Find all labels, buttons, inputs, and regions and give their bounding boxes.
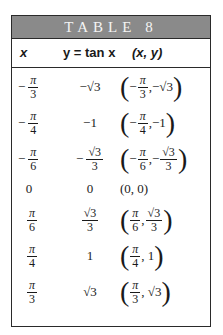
cell-x: 0	[18, 175, 40, 203]
table-row: π6 √33 (π6,√33)	[12, 202, 210, 238]
cell-pair: (−π6,−√33)	[120, 141, 210, 177]
table-header: x y = tan x (x, y)	[12, 38, 210, 68]
cell-y: −1	[62, 105, 118, 141]
cell-x: π6	[18, 202, 54, 238]
table-row: π4 1 (π4, 1)	[12, 238, 210, 274]
table-title: TABLE 8	[12, 16, 210, 38]
cell-y: −√3	[62, 69, 118, 105]
header-pair: (x, y)	[132, 45, 162, 60]
cell-y: √33	[62, 202, 118, 238]
tangent-values-table: TABLE 8 x y = tan x (x, y) −π3 −√3 (−π3,…	[11, 15, 211, 327]
header-x: x	[20, 45, 27, 60]
cell-pair: (π4, 1)	[120, 238, 210, 274]
cell-pair: (π6,√33)	[120, 202, 210, 238]
cell-pair: (π3, √3)	[120, 274, 210, 310]
table-row: −π3 −√3 (−π3,−√3)	[12, 69, 210, 105]
cell-y: 0	[62, 175, 118, 203]
cell-pair: (0, 0)	[120, 175, 210, 203]
table-row: 0 0 (0, 0)	[12, 175, 210, 203]
cell-y: √3	[62, 274, 118, 310]
header-y: y = tan x	[63, 45, 115, 60]
cell-pair: (−π4,−1)	[120, 105, 210, 141]
cell-x: π4	[18, 238, 54, 274]
cell-y: −√33	[62, 141, 118, 177]
cell-pair: (−π3,−√3)	[120, 69, 210, 105]
cell-x: −π6	[18, 141, 54, 177]
cell-y: 1	[62, 238, 118, 274]
table-row: −π6 −√33 (−π6,−√33)	[12, 141, 210, 177]
cell-x: −π4	[18, 105, 54, 141]
cell-x: π3	[18, 274, 54, 310]
table-row: π3 √3 (π3, √3)	[12, 274, 210, 310]
cell-x: −π3	[18, 69, 54, 105]
table-row: −π4 −1 (−π4,−1)	[12, 105, 210, 141]
